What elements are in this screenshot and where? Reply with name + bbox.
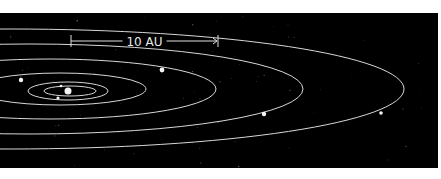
star	[133, 153, 134, 154]
star	[264, 75, 265, 76]
star	[294, 37, 295, 38]
star	[289, 90, 290, 91]
star	[194, 91, 195, 92]
star	[209, 77, 210, 78]
star	[212, 51, 213, 52]
planet-5-icon	[262, 112, 266, 116]
star	[115, 49, 116, 50]
star	[289, 147, 290, 148]
star	[421, 107, 422, 108]
star	[391, 101, 392, 102]
star	[320, 89, 321, 90]
star	[258, 76, 259, 77]
planet-6-icon	[379, 111, 383, 115]
star	[288, 24, 289, 25]
star	[104, 150, 105, 151]
star	[346, 34, 347, 35]
star	[402, 108, 403, 109]
star	[22, 70, 23, 71]
star	[28, 68, 29, 69]
star	[405, 146, 406, 147]
planet-1-icon	[60, 85, 63, 88]
star	[288, 36, 289, 37]
planet-4-icon	[160, 68, 165, 73]
star	[219, 81, 220, 82]
star	[231, 78, 232, 79]
star	[235, 141, 236, 142]
planet-2-icon	[56, 96, 59, 99]
star	[388, 159, 389, 160]
star	[20, 76, 21, 77]
star	[256, 81, 257, 82]
star	[74, 18, 75, 19]
star	[351, 77, 352, 78]
star	[177, 47, 178, 48]
star	[200, 162, 201, 163]
star	[192, 71, 193, 72]
star	[363, 40, 364, 41]
star	[80, 115, 81, 116]
star	[273, 26, 274, 27]
star	[420, 92, 421, 93]
star	[242, 16, 243, 17]
scale-bar-label: 10 AU	[126, 35, 162, 49]
star	[55, 125, 56, 126]
star	[121, 103, 122, 104]
star	[238, 166, 239, 167]
solar-system-diagram: 10 AU	[0, 0, 441, 179]
star	[216, 21, 217, 22]
star	[120, 67, 121, 68]
star	[154, 67, 155, 68]
star	[192, 24, 193, 25]
star	[199, 148, 200, 149]
star	[418, 63, 419, 64]
star	[58, 125, 59, 126]
star	[10, 36, 11, 37]
star	[59, 47, 60, 48]
star	[214, 100, 215, 101]
star	[183, 98, 184, 99]
star	[235, 56, 236, 57]
star	[117, 161, 118, 162]
star	[314, 112, 315, 113]
star	[54, 135, 55, 136]
star	[239, 64, 240, 65]
sun-icon	[65, 88, 72, 95]
star	[197, 127, 198, 128]
star	[77, 20, 78, 21]
star	[74, 165, 75, 166]
planet-3-icon	[19, 78, 23, 82]
star	[199, 98, 200, 99]
star	[144, 17, 145, 18]
